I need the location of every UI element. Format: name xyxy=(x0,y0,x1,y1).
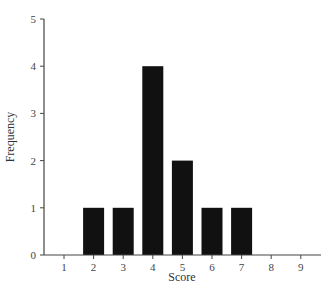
bar-4 xyxy=(142,66,163,255)
frequency-histogram: 012345 123456789 Score Frequency xyxy=(0,0,335,299)
x-tick-label: 8 xyxy=(268,261,274,273)
y-tick-label: 0 xyxy=(31,249,37,261)
x-tick-label: 4 xyxy=(150,261,156,273)
y-axis-ticks: 012345 xyxy=(31,13,45,261)
x-axis-title: Score xyxy=(168,270,195,284)
y-axis-title: Frequency xyxy=(3,112,17,163)
y-tick-label: 1 xyxy=(31,202,37,214)
bar-7 xyxy=(231,208,252,255)
y-tick-label: 5 xyxy=(31,13,37,25)
bar-3 xyxy=(113,208,134,255)
bar-2 xyxy=(83,208,104,255)
x-tick-label: 1 xyxy=(61,261,67,273)
x-tick-label: 2 xyxy=(91,261,97,273)
x-tick-label: 7 xyxy=(239,261,245,273)
y-tick-label: 4 xyxy=(31,60,37,72)
y-tick-label: 3 xyxy=(31,107,37,119)
y-tick-label: 2 xyxy=(31,155,37,167)
x-tick-label: 6 xyxy=(209,261,215,273)
bar-5 xyxy=(172,161,193,255)
x-tick-label: 3 xyxy=(120,261,126,273)
bar-6 xyxy=(202,208,223,255)
bars xyxy=(83,66,252,255)
x-tick-label: 9 xyxy=(298,261,304,273)
